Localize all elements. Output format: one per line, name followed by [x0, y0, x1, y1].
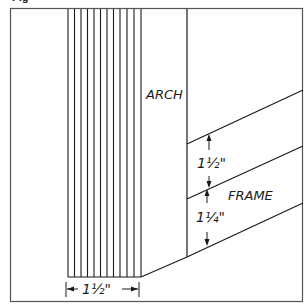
arch-label: ARCH	[145, 87, 183, 102]
frame-label: FRAME	[228, 188, 274, 203]
arch-bottom-diagonal	[141, 257, 187, 277]
upper-thickness-label: 1½"	[197, 155, 226, 171]
arch-board-grain	[68, 9, 141, 277]
arrow-right-icon	[131, 287, 138, 292]
arrow-down-icon	[207, 181, 212, 188]
arch-frame-diagram: ARCH FRAME 1½" 1¼" 1½"	[0, 0, 305, 306]
lower-thickness-label: 1¼"	[196, 209, 225, 225]
figure-border	[11, 9, 303, 302]
arch-width-label: 1½"	[82, 281, 111, 297]
arrow-down-icon	[205, 239, 210, 246]
frame-edges	[187, 90, 303, 257]
arrow-left-icon	[67, 287, 74, 292]
